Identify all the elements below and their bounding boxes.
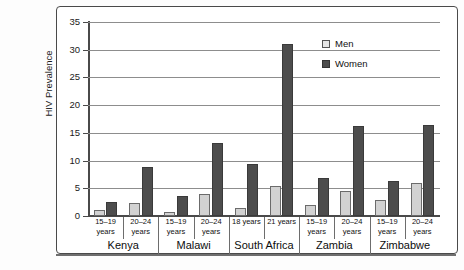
age-label-line1-1: 20–24 <box>123 217 158 227</box>
age-label-2: 15–19years <box>158 217 193 236</box>
bar-women-6 <box>318 178 329 216</box>
country-separator-2 <box>229 239 230 254</box>
age-separator-1 <box>123 217 124 239</box>
bar-men-5 <box>270 186 281 216</box>
age-label-1: 20–24years <box>123 217 158 236</box>
y-tick-label-5: 5 <box>54 183 80 193</box>
y-tick-label-10: 10 <box>54 156 80 166</box>
age-label-line2-3: years <box>194 227 229 237</box>
bottom-rule <box>56 254 456 256</box>
bar-women-0 <box>106 202 117 216</box>
country-label-zimbabwe: Zimbabwe <box>370 239 440 251</box>
chart-figure: HIV Prevalence 35302520151050 Men Women … <box>0 0 464 270</box>
age-label-4: 18 years <box>229 217 264 227</box>
age-label-line1-4: 18 years <box>229 217 264 227</box>
age-label-0: 15–19years <box>88 217 123 236</box>
legend: Men Women <box>322 38 368 78</box>
bar-men-8 <box>375 200 386 216</box>
age-separator-9 <box>405 217 406 239</box>
bar-women-4 <box>247 164 258 216</box>
y-tick-label-15: 15 <box>54 128 80 138</box>
age-label-line2-7: years <box>334 227 369 237</box>
y-tick-label-20: 20 <box>54 100 80 110</box>
gridline-10 <box>88 161 440 162</box>
bar-women-3 <box>212 143 223 216</box>
country-separator-1 <box>158 239 159 254</box>
age-label-7: 20–24years <box>334 217 369 236</box>
age-label-line2-2: years <box>158 227 193 237</box>
country-axis: KenyaMalawiSouth AfricaZambiaZimbabwe <box>88 239 440 255</box>
age-label-line1-8: 15–19 <box>370 217 405 227</box>
age-label-line2-9: years <box>405 227 440 237</box>
country-label-kenya: Kenya <box>88 239 158 251</box>
y-tick-label-35: 35 <box>54 17 80 27</box>
y-tick-label-0: 0 <box>54 211 80 221</box>
age-label-line2-6: years <box>299 227 334 237</box>
age-separator-8 <box>370 217 371 239</box>
legend-item-men: Men <box>322 38 368 49</box>
age-separator-7 <box>334 217 335 239</box>
age-label-5: 21 years <box>264 217 299 227</box>
age-label-line2-1: years <box>123 227 158 237</box>
legend-swatch-men-icon <box>322 40 330 48</box>
age-label-line1-2: 15–19 <box>158 217 193 227</box>
age-label-line2-8: years <box>370 227 405 237</box>
bar-women-7 <box>353 126 364 216</box>
age-label-line1-7: 20–24 <box>334 217 369 227</box>
y-axis-title: HIV Prevalence <box>43 24 54 144</box>
bar-women-9 <box>423 125 434 216</box>
legend-label-men: Men <box>335 38 353 49</box>
bar-women-2 <box>177 196 188 217</box>
legend-item-women: Women <box>322 58 368 69</box>
country-separator-3 <box>299 239 300 254</box>
age-separator-6 <box>299 217 300 239</box>
age-separator-3 <box>194 217 195 239</box>
country-separator-4 <box>370 239 371 254</box>
gridline-25 <box>88 77 440 78</box>
gridline-15 <box>88 133 440 134</box>
bar-men-2 <box>164 212 175 216</box>
age-group-axis: 15–19years20–24years15–19years20–24years… <box>88 217 440 239</box>
age-separator-4 <box>229 217 230 239</box>
age-label-8: 15–19years <box>370 217 405 236</box>
bar-men-9 <box>411 183 422 216</box>
bar-men-4 <box>235 208 246 216</box>
country-label-zambia: Zambia <box>299 239 369 251</box>
bar-women-5 <box>282 44 293 216</box>
gridline-35 <box>88 22 440 23</box>
age-label-6: 15–19years <box>299 217 334 236</box>
age-separator-2 <box>158 217 159 239</box>
bar-women-1 <box>142 167 153 216</box>
legend-label-women: Women <box>335 58 368 69</box>
gridline-20 <box>88 105 440 106</box>
age-label-line2-0: years <box>88 227 123 237</box>
bar-women-8 <box>388 181 399 216</box>
age-label-line1-5: 21 years <box>264 217 299 227</box>
legend-swatch-women-icon <box>322 60 330 68</box>
age-separator-5 <box>264 217 265 239</box>
age-label-9: 20–24years <box>405 217 440 236</box>
age-label-3: 20–24years <box>194 217 229 236</box>
gridline-30 <box>88 50 440 51</box>
country-label-south-africa: South Africa <box>229 239 299 251</box>
country-label-malawi: Malawi <box>158 239 228 251</box>
bar-men-1 <box>129 203 140 216</box>
age-label-line1-9: 20–24 <box>405 217 440 227</box>
age-label-line1-6: 15–19 <box>299 217 334 227</box>
y-tick-label-25: 25 <box>54 72 80 82</box>
age-label-line1-0: 15–19 <box>88 217 123 227</box>
age-label-line1-3: 20–24 <box>194 217 229 227</box>
bar-men-7 <box>340 191 351 216</box>
bar-men-6 <box>305 205 316 216</box>
bar-men-3 <box>199 194 210 216</box>
y-tick-label-30: 30 <box>54 45 80 55</box>
bar-men-0 <box>94 210 105 216</box>
plot-area <box>88 22 440 216</box>
